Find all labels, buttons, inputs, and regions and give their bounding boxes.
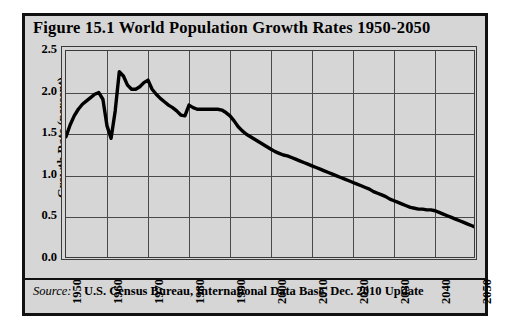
y-tick-label-2.5: 2.5 bbox=[41, 43, 57, 56]
y-tick-label-0.0: 0.0 bbox=[41, 251, 57, 264]
y-axis-tick-labels: 0.00.51.01.52.02.5 bbox=[25, 46, 57, 260]
x-tick-label-2050: 2050 bbox=[480, 279, 495, 304]
source-divider bbox=[25, 278, 485, 280]
y-tick-label-1.0: 1.0 bbox=[41, 168, 57, 181]
y-tick-label-0.5: 0.5 bbox=[41, 209, 57, 222]
source-line: Source: U.S. Census Bureau, Internationa… bbox=[33, 284, 424, 299]
y-tick-label-2.0: 2.0 bbox=[41, 85, 57, 98]
plot-area bbox=[65, 50, 475, 258]
x-tick-label-2040: 2040 bbox=[439, 279, 454, 304]
figure-title: Figure 15.1 World Population Growth Rate… bbox=[33, 18, 431, 38]
y-tick-label-1.5: 1.5 bbox=[41, 126, 57, 139]
growth-rate-line-series bbox=[66, 51, 475, 258]
source-text: U.S. Census Bureau, International Data B… bbox=[84, 284, 424, 298]
figure-frame: Figure 15.1 World Population Growth Rate… bbox=[22, 13, 488, 316]
plot-region bbox=[61, 46, 477, 260]
plot-outer-frame bbox=[61, 46, 477, 260]
source-label: Source: bbox=[33, 284, 71, 298]
